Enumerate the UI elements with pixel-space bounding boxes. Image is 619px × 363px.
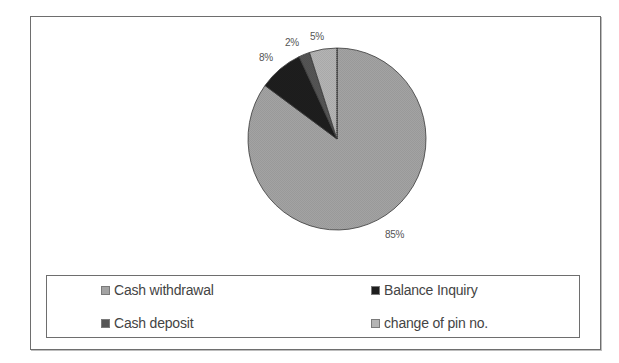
legend-item-balance-inquiry: Balance Inquiry (371, 281, 478, 299)
legend: Cash withdrawal Balance Inquiry Cash dep… (46, 275, 580, 338)
legend-swatch (371, 286, 380, 295)
label-change-of-pin: 5% (310, 31, 324, 42)
label-cash-withdrawal: 85% (385, 229, 404, 240)
label-cash-deposit: 2% (285, 37, 299, 48)
legend-label: Cash deposit (114, 315, 193, 331)
legend-item-cash-deposit: Cash deposit (101, 314, 193, 332)
legend-label: Balance Inquiry (384, 282, 478, 298)
legend-item-change-of-pin: change of pin no. (371, 314, 488, 332)
legend-swatch (101, 286, 110, 295)
legend-swatch (371, 319, 380, 328)
legend-item-cash-withdrawal: Cash withdrawal (101, 281, 214, 299)
legend-label: change of pin no. (384, 315, 488, 331)
legend-swatch (101, 319, 110, 328)
label-balance-inquiry: 8% (259, 52, 273, 63)
legend-label: Cash withdrawal (114, 282, 214, 298)
